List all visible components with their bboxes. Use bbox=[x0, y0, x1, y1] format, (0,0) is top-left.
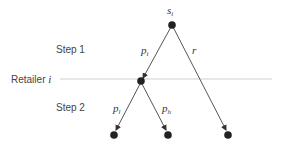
edge-root-to-leaf-right bbox=[172, 25, 226, 130]
edge-label-sub: i bbox=[147, 50, 149, 58]
step-1-label: Step 1 bbox=[56, 45, 85, 55]
edge-label-sub: h bbox=[168, 108, 172, 116]
edge-label-p-i: pi bbox=[141, 45, 148, 58]
retailer-label-var: i bbox=[48, 73, 51, 85]
edge-label-p-l: pl bbox=[113, 103, 120, 116]
retailer-label: Retailer i bbox=[11, 74, 51, 85]
edge-label-p-h: ph bbox=[162, 103, 171, 116]
leaf-right-node bbox=[224, 131, 232, 139]
retailer-label-text: Retailer bbox=[11, 74, 45, 85]
edge-label-main: r bbox=[192, 44, 196, 56]
retailer-node bbox=[137, 77, 145, 85]
root-label-sub: i bbox=[171, 10, 173, 18]
root-node-label: si bbox=[167, 5, 173, 18]
root-node bbox=[168, 21, 176, 29]
leaf-mid-node bbox=[164, 131, 172, 139]
edge-label-sub: l bbox=[119, 108, 121, 116]
step-2-label: Step 2 bbox=[56, 103, 85, 113]
leaf-left-node bbox=[110, 131, 118, 139]
edge-label-r: r bbox=[192, 45, 196, 56]
